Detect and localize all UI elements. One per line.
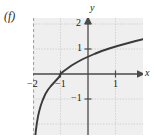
x-tick-label--2: −2 bbox=[27, 78, 38, 89]
x-axis-label: x bbox=[145, 67, 149, 78]
part-label: (f) bbox=[4, 9, 15, 24]
y-tick-label-1: 1 bbox=[77, 42, 82, 53]
x-tick-label-1: 1 bbox=[113, 78, 118, 89]
graph-svg bbox=[33, 18, 143, 135]
figure-panel: (f) bbox=[0, 0, 154, 139]
x-tick-label--1: −1 bbox=[55, 78, 66, 89]
plot-area: −2 −1 1 2 1 −1 y x bbox=[33, 18, 143, 135]
y-axis-label: y bbox=[90, 2, 94, 13]
y-tick-label-2: 2 bbox=[76, 17, 81, 28]
y-tick-label--1: −1 bbox=[71, 92, 82, 103]
